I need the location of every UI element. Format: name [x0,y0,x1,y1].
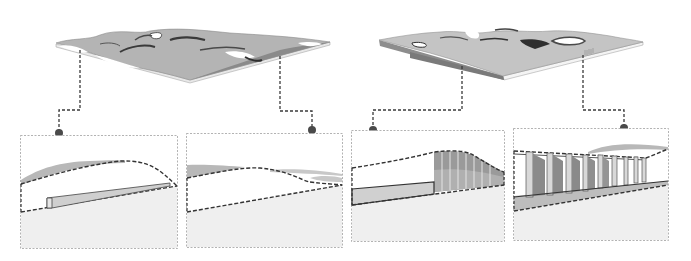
detail-panel-2 [187,134,343,248]
leader-line-left-b [280,56,312,127]
detail-panel-4 [514,129,669,241]
callout-dot-2 [308,126,316,134]
terrain-model-left [56,29,330,83]
leader-line-left-a [59,50,80,130]
terrain-model-right [379,29,643,80]
detail-panel-3 [352,131,505,242]
leader-line-right-b [583,55,624,125]
leader-line-right-a [373,66,462,128]
detail-panel-1 [21,136,178,249]
diagram-canvas [0,0,691,261]
